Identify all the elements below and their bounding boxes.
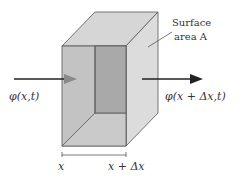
box-inner-panel <box>95 46 126 113</box>
control-volume-diagram: Surface area A φ(x,t) φ(x + Δx,t) x x + … <box>0 0 244 180</box>
surface-label-line1: Surface <box>172 17 211 28</box>
x-right-label: x + Δx <box>108 160 145 173</box>
flux-out-arrow-head <box>190 74 203 84</box>
surface-label-line2: area A <box>174 31 208 42</box>
x-left-label: x <box>58 160 65 173</box>
flux-in-label: φ(x,t) <box>9 90 39 103</box>
flux-out-label: φ(x + Δx,t) <box>165 90 226 103</box>
